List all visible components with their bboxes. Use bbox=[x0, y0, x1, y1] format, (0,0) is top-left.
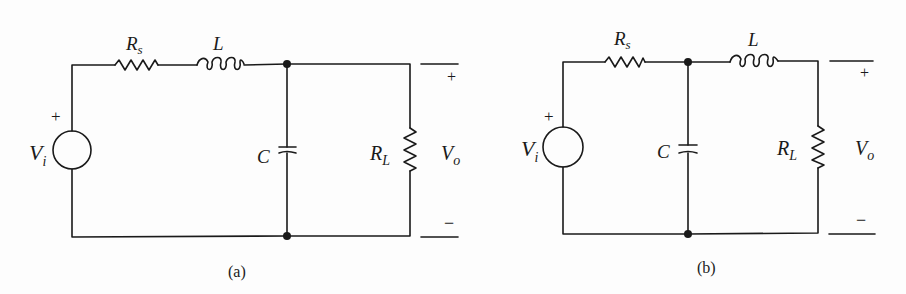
figure-canvas: + Vi Rs L C RL + − Vo (a) + Vi bbox=[0, 0, 906, 294]
wire-b-bottom bbox=[563, 167, 818, 234]
source-plus-a: + bbox=[51, 107, 61, 126]
label-l-b: L bbox=[747, 29, 759, 50]
label-rs-b: Rs bbox=[613, 28, 631, 52]
voltage-source-a bbox=[53, 131, 91, 169]
voltage-source-b bbox=[543, 127, 583, 167]
out-plus-b: + bbox=[860, 64, 869, 81]
wire-a-bottom bbox=[72, 169, 410, 237]
label-vi-b: Vi bbox=[521, 136, 538, 165]
inductor-l-a bbox=[197, 58, 244, 70]
resistor-rs-b bbox=[605, 57, 645, 67]
wire-b-top-right bbox=[778, 61, 818, 126]
out-minus-a: − bbox=[444, 213, 454, 233]
label-vo-b: Vo bbox=[855, 137, 874, 163]
wire-a-top-right bbox=[244, 64, 410, 128]
wire-a-top-left bbox=[72, 65, 115, 131]
node-a-bottom bbox=[283, 232, 291, 240]
label-rs-a: Rs bbox=[125, 33, 143, 57]
caption-b: (b) bbox=[697, 259, 716, 277]
source-plus-b: + bbox=[544, 107, 554, 126]
inductor-l-b bbox=[730, 55, 778, 67]
circuit-b: + Vi Rs L C RL + − Vo (b) bbox=[521, 28, 875, 277]
caption-a: (a) bbox=[228, 263, 246, 281]
node-a-top bbox=[283, 60, 291, 68]
circuit-a: + Vi Rs L C RL + − Vo (a) bbox=[29, 33, 460, 281]
node-b-bottom bbox=[684, 230, 692, 238]
node-b-top bbox=[684, 58, 692, 66]
label-vo-a: Vo bbox=[441, 142, 460, 168]
label-l-a: L bbox=[212, 33, 224, 54]
label-c-a: C bbox=[257, 146, 270, 167]
resistor-rl-b bbox=[812, 126, 824, 168]
label-c-b: C bbox=[657, 141, 670, 162]
label-vi-a: Vi bbox=[29, 140, 46, 169]
resistor-rs-a bbox=[115, 60, 158, 70]
label-rl-a: RL bbox=[369, 142, 390, 168]
out-minus-b: − bbox=[856, 210, 866, 230]
label-rl-b: RL bbox=[776, 137, 797, 163]
wire-b-top-left bbox=[563, 62, 605, 127]
resistor-rl-a bbox=[404, 128, 416, 171]
circuit-diagrams: + Vi Rs L C RL + − Vo (a) + Vi bbox=[0, 0, 906, 294]
out-plus-a: + bbox=[447, 68, 456, 85]
